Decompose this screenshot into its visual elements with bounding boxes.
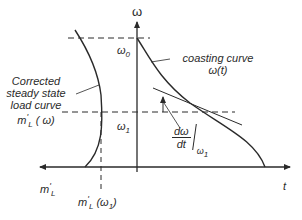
omega-axis-label: ω bbox=[132, 6, 142, 18]
omega1-label: ω1 bbox=[117, 120, 130, 137]
slope-numerator: dω bbox=[172, 125, 191, 138]
omega0-label: ω0 bbox=[117, 44, 130, 61]
slope-eval-point: ω1 bbox=[197, 145, 208, 161]
slope-denominator: dt bbox=[172, 138, 191, 150]
coasting-curve-label: coasting curve ω(t) bbox=[178, 52, 258, 76]
m-axis-label: m'L bbox=[40, 180, 55, 200]
t-axis-label: t bbox=[283, 180, 286, 192]
load-curve bbox=[75, 30, 102, 167]
load-at-omega1-label: m'L (ω1) bbox=[78, 193, 117, 213]
load-curve-label: Corrected steady state load curve m'L ( … bbox=[0, 75, 72, 131]
coasting-leader bbox=[151, 59, 170, 62]
load-curve-function: m'L ( ω) bbox=[0, 111, 72, 131]
coasting-diagram: ω t ω0 ω1 coasting curve ω(t) Corrected … bbox=[0, 0, 302, 220]
load-leader bbox=[76, 85, 99, 94]
slope-label: dω dt ω1 bbox=[172, 124, 208, 161]
